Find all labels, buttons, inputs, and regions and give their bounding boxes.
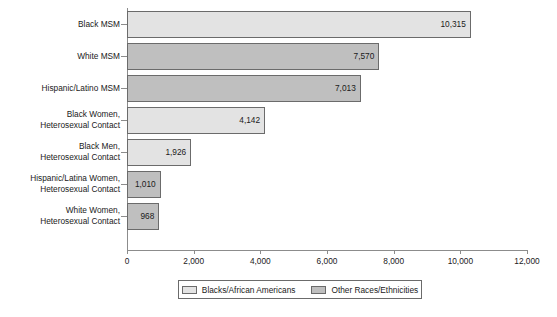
legend-label: Other Races/Ethnicities	[331, 285, 418, 295]
bar-row: Hispanic/Latina Women,Heterosexual Conta…	[0, 168, 557, 200]
bar-row: Hispanic/Latino MSM7,013	[0, 72, 557, 104]
category-label-line: Black MSM	[78, 19, 120, 30]
x-axis-tick-label: 0	[125, 256, 130, 266]
x-axis-tick-mark	[327, 250, 328, 254]
category-label-line: Black Women,	[67, 109, 120, 120]
category-label-line: Hispanic/Latina Women,	[30, 173, 120, 184]
category-label-line: White Women,	[66, 205, 120, 216]
category-label: Hispanic/Latino MSM	[0, 72, 120, 104]
legend-swatch	[311, 286, 326, 294]
x-axis-tick-mark	[194, 250, 195, 254]
x-axis-tick-mark	[460, 250, 461, 254]
category-label: Black MSM	[0, 8, 120, 40]
category-label-line: Heterosexual Contact	[40, 184, 120, 195]
category-label-line: Heterosexual Contact	[40, 152, 120, 163]
bar-row: Black Women,Heterosexual Contact4,142	[0, 104, 557, 136]
x-axis-ticks: 02,0004,0006,0008,00010,00012,000	[0, 250, 557, 272]
x-axis-tick-mark	[260, 250, 261, 254]
legend-label: Blacks/African Americans	[202, 285, 296, 295]
bar-value-label: 7,570	[127, 43, 379, 70]
bar-value-label: 968	[127, 203, 159, 230]
category-label-line: White MSM	[77, 51, 120, 62]
category-label-line: Hispanic/Latino MSM	[42, 83, 120, 94]
chart-legend: Blacks/African AmericansOther Races/Ethn…	[178, 280, 422, 299]
x-axis-tick-mark	[127, 250, 128, 254]
x-axis-tick-label: 4,000	[250, 256, 271, 266]
category-label-line: Black Men,	[79, 141, 120, 152]
x-axis-tick-label: 10,000	[448, 256, 473, 266]
legend-item: Blacks/African Americans	[182, 285, 296, 295]
x-axis-tick-mark	[527, 250, 528, 254]
bar-value-label: 7,013	[127, 75, 361, 102]
category-label: White MSM	[0, 40, 120, 72]
x-axis-tick-label: 8,000	[383, 256, 404, 266]
bar-row: Black Men,Heterosexual Contact1,926	[0, 136, 557, 168]
bar-value-label: 4,142	[127, 107, 265, 134]
category-label: Black Women,Heterosexual Contact	[0, 104, 120, 136]
legend-swatch	[182, 286, 197, 294]
legend-item: Other Races/Ethnicities	[311, 285, 418, 295]
bar-row: Black MSM10,315	[0, 8, 557, 40]
bar-chart: Black MSM10,315White MSM7,570Hispanic/La…	[0, 0, 557, 317]
x-axis-tick-label: 2,000	[183, 256, 204, 266]
bar-value-label: 10,315	[127, 11, 471, 38]
bar-rows: Black MSM10,315White MSM7,570Hispanic/La…	[0, 8, 557, 248]
category-label-line: Heterosexual Contact	[40, 120, 120, 131]
category-label: Hispanic/Latina Women,Heterosexual Conta…	[0, 168, 120, 200]
category-label-line: Heterosexual Contact	[40, 216, 120, 227]
x-axis-tick-label: 12,000	[514, 256, 539, 266]
bar-value-label: 1,010	[127, 171, 161, 198]
x-axis-tick-label: 6,000	[317, 256, 338, 266]
x-axis-tick-mark	[394, 250, 395, 254]
category-label: Black Men,Heterosexual Contact	[0, 136, 120, 168]
category-label: White Women,Heterosexual Contact	[0, 200, 120, 232]
bar-row: White Women,Heterosexual Contact968	[0, 200, 557, 232]
bar-row: White MSM7,570	[0, 40, 557, 72]
bar-value-label: 1,926	[127, 139, 191, 166]
